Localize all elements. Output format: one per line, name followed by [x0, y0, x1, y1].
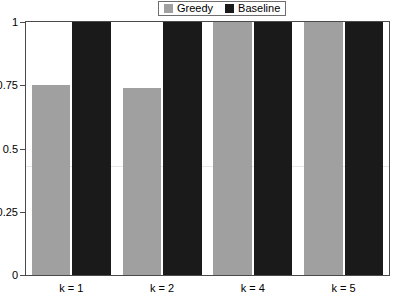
- legend-entry: Baseline: [225, 3, 280, 14]
- x-tick-label: k = 4: [241, 283, 265, 294]
- bar-greedy-group-2: [123, 88, 162, 275]
- bar-baseline-group-3: [254, 22, 293, 275]
- bar-greedy-group-1: [32, 85, 71, 275]
- y-tick-label: 0.5: [3, 143, 18, 154]
- bar-baseline-group-4: [345, 22, 384, 275]
- legend-swatch-greedy: [164, 4, 173, 13]
- legend-label: Baseline: [238, 3, 280, 14]
- bar-chart: GreedyBaseline 00.250.50.751 k = 1k = 2k…: [0, 0, 406, 300]
- y-axis: 00.250.50.751: [0, 0, 25, 300]
- x-tick-label: k = 5: [332, 283, 356, 294]
- plot-area: [25, 21, 390, 276]
- legend-entry: Greedy: [164, 3, 213, 14]
- y-tick-label: 0.25: [0, 206, 18, 217]
- x-tick-label: k = 2: [150, 283, 174, 294]
- y-tick-label: 0.75: [0, 80, 18, 91]
- bar-greedy-group-4: [304, 22, 343, 275]
- chart-legend: GreedyBaseline: [158, 1, 286, 16]
- bar-baseline-group-2: [163, 22, 202, 275]
- legend-label: Greedy: [177, 3, 213, 14]
- y-tick-label: 0: [12, 270, 18, 281]
- legend-swatch-baseline: [225, 4, 234, 13]
- x-tick-label: k = 1: [59, 283, 83, 294]
- y-tick-label: 1: [12, 17, 18, 28]
- bar-baseline-group-1: [72, 22, 111, 275]
- bar-greedy-group-3: [213, 22, 252, 275]
